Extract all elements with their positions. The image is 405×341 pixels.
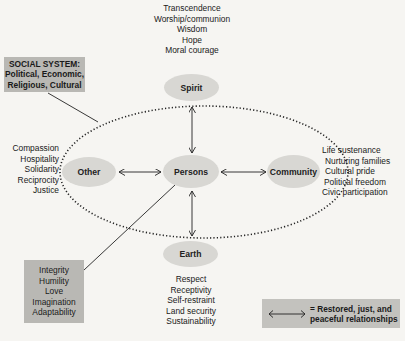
node-spirit: Spirit [164,74,219,101]
community-value: Political freedom [322,177,405,188]
other-value: Hospitality [0,154,59,165]
virtues-connector [84,185,175,270]
earth-value: Self-restraint [145,295,237,306]
legend-box: = Restored, just, and peaceful relations… [262,299,400,328]
spirit-value: Moral courage [142,45,242,56]
social-system-line: SOCIAL SYSTEM: [9,59,80,70]
double-arrow-icon [267,309,307,319]
virtue: Integrity [39,265,69,276]
virtue: Humility [39,276,69,287]
node-earth: Earth [163,241,218,267]
social-system-line: Religious, Cultural [8,80,82,91]
spirit-values-list: Transcendence Worship/communion Wisdom H… [142,3,242,56]
legend-text: = Restored, just, and peaceful relations… [310,304,398,324]
community-value: Civic participation [322,187,405,198]
earth-values-list: Respect Receptivity Self-restraint Land … [145,274,237,327]
node-other: Other [62,157,116,187]
community-value: Cultural pride [322,166,405,177]
other-value: Justice [0,185,59,196]
other-value: Reciprocity [0,175,59,186]
earth-value: Respect [145,274,237,285]
community-values-list: Life sustenance Nurturing families Cultu… [322,145,405,198]
spirit-value: Hope [142,35,242,46]
earth-value: Sustainability [145,316,237,327]
node-persons: Persons [163,155,219,188]
community-value: Life sustenance [322,145,405,156]
legend-line: peaceful relationships [310,314,398,324]
virtue: Imagination [32,297,75,308]
community-value: Nurturing families [322,156,405,167]
social-system-connector [48,93,98,122]
legend-line: = Restored, just, and [310,304,398,314]
virtue: Love [45,286,63,297]
spirit-value: Wisdom [142,24,242,35]
other-value: Solidarity [0,164,59,175]
earth-value: Receptivity [145,285,237,296]
spirit-value: Transcendence [142,3,242,14]
social-system-box: SOCIAL SYSTEM: Political, Economic, Reli… [4,57,85,92]
virtue: Adaptability [32,307,75,318]
person-virtues-box: Integrity Humility Love Imagination Adap… [24,260,84,323]
node-community: Community [267,155,320,188]
other-values-list: Compassion Hospitality Solidarity Recipr… [0,143,59,196]
spirit-value: Worship/communion [142,14,242,25]
other-value: Compassion [0,143,59,154]
social-system-line: Political, Economic, [5,69,84,80]
earth-value: Land security [145,306,237,317]
